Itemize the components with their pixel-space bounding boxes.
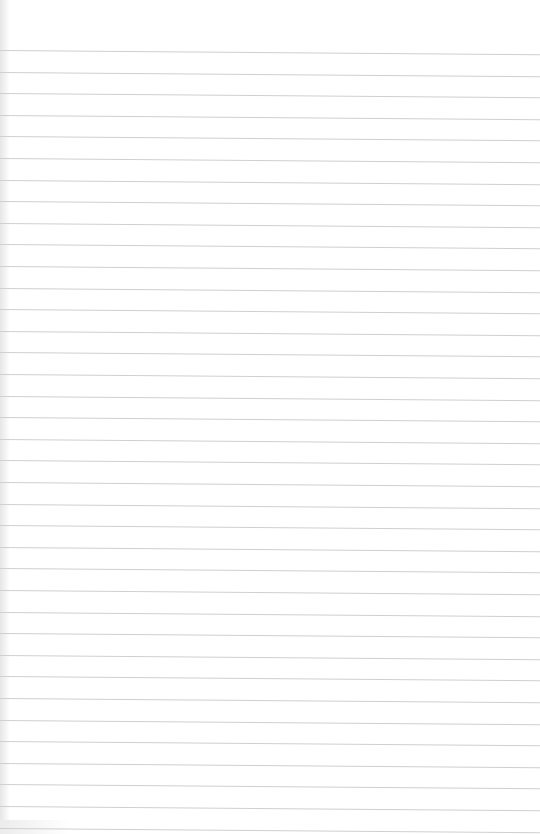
ruled-line	[0, 460, 540, 465]
ruled-line	[0, 396, 540, 401]
ruled-line	[0, 698, 540, 703]
ruled-line	[0, 612, 540, 617]
ruled-line	[0, 547, 540, 552]
ruled-line	[0, 352, 540, 357]
ruled-line	[0, 806, 540, 811]
ruled-line	[0, 590, 540, 595]
ruled-line	[0, 784, 540, 789]
ruled-line	[0, 180, 540, 185]
ruled-line	[0, 223, 540, 228]
ruled-line	[0, 331, 540, 336]
ruled-line	[0, 504, 540, 509]
ruled-line	[0, 201, 540, 206]
ruled-line	[0, 633, 540, 638]
ruled-line	[0, 525, 540, 530]
ruled-line	[0, 482, 540, 487]
ruled-line	[0, 439, 540, 444]
ruled-line	[0, 374, 540, 379]
ruled-line	[0, 655, 540, 660]
ruled-line	[0, 244, 540, 249]
ruled-line	[0, 828, 540, 833]
ruled-line	[0, 72, 540, 77]
ruled-line	[0, 266, 540, 271]
ruled-line	[0, 763, 540, 768]
ruled-line	[0, 115, 540, 120]
bottom-corner-shadow	[0, 820, 70, 834]
ruled-line	[0, 720, 540, 725]
ruled-line	[0, 136, 540, 141]
ruled-line	[0, 288, 540, 293]
ruled-line	[0, 568, 540, 573]
ruled-line	[0, 158, 540, 163]
ruled-line	[0, 50, 540, 55]
ruled-line	[0, 676, 540, 681]
ruled-line	[0, 417, 540, 422]
ruled-line	[0, 741, 540, 746]
ruled-line	[0, 93, 540, 98]
ruled-line	[0, 309, 540, 314]
